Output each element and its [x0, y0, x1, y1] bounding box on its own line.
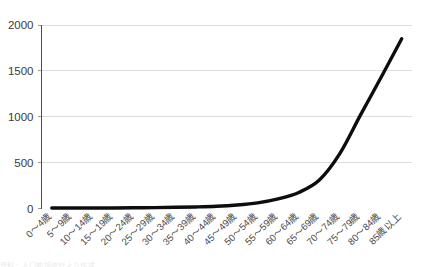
line-chart: 0500100015002000 0～4歳5～9歳10～14歳15～19歳20～…: [0, 0, 435, 267]
y-axis-tick-label: 1500: [8, 65, 34, 77]
y-axis-tick-label: 1000: [8, 111, 34, 123]
y-axis-tick-label: 2000: [8, 19, 34, 31]
footer-note: 資料：人口動態統計より作成: [0, 260, 435, 267]
chart-container: 0500100015002000 0～4歳5～9歳10～14歳15～19歳20～…: [0, 0, 435, 267]
y-axis-tick-label: 0: [27, 203, 33, 215]
y-axis-tick-label: 500: [14, 157, 33, 169]
